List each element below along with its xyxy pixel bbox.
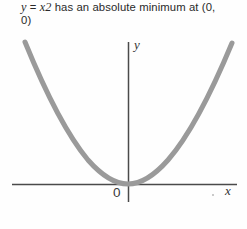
parabola-figure: y = x2 has an absolute minimum at (0, 0)… — [0, 0, 247, 229]
parabola-plot — [0, 0, 247, 229]
x-axis-label: x — [225, 183, 231, 199]
y-axis-label: y — [134, 37, 140, 53]
x-axis-tick-dot — [212, 194, 214, 196]
origin-label: 0 — [113, 185, 121, 200]
